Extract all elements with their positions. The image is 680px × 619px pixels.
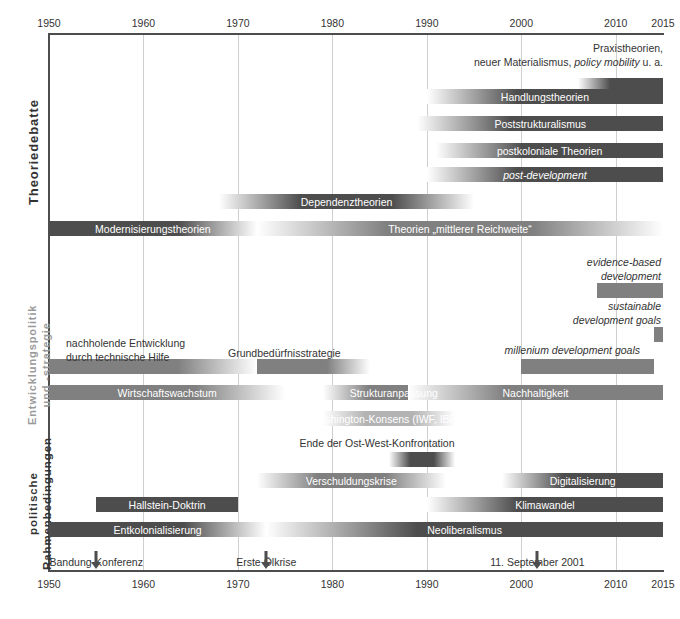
tick-bot-2000: 2000 [510, 578, 533, 590]
bar-annotation-line: durch technische Hilfe [66, 350, 185, 364]
timeline-bar: Verschuldungskrise [257, 473, 446, 488]
bar-annotation: Grundbedürfnisstrategie [228, 346, 341, 360]
tick-bot-1990: 1990 [415, 578, 438, 590]
timeline-bar-label: post-development [499, 169, 590, 181]
timeline-bar [257, 359, 370, 374]
timeline-bar-label: Entkolonialisierung [110, 524, 206, 536]
bar-annotation-line: Grundbedürfnisstrategie [228, 346, 341, 360]
top-axis-line [48, 33, 664, 35]
timeline-bar: Handlungstheorien [427, 89, 663, 104]
timeline-bar: Hallstein-Doktrin [96, 497, 238, 512]
timeline-bar-label: Theorien „mittlerer Reichweite“ [384, 223, 536, 235]
tick-top-1980: 1980 [321, 17, 344, 29]
timeline-bar-label: Dependenztheorien [297, 196, 397, 208]
timeline-bar [597, 283, 663, 298]
tick-top-2000: 2000 [510, 17, 533, 29]
timeline-bar-label: postkoloniale Theorien [493, 145, 606, 157]
timeline-bar: Poststrukturalismus [417, 116, 663, 131]
gridline-1970 [238, 35, 239, 570]
bar-annotation-line: Praxistheorien, [474, 41, 663, 55]
bar-annotation-line: evidence-based [587, 255, 661, 269]
tick-top-1960: 1960 [132, 17, 155, 29]
timeline-bar: Klimawandel [427, 497, 663, 512]
timeline-bar: Washington-Konsens (IWF, IBRD) [323, 411, 455, 426]
bar-annotation-line: Ende der Ost-West-Konfrontation [299, 436, 454, 450]
timeline-bar: Digitalisierung [502, 473, 663, 488]
tick-top-1990: 1990 [415, 17, 438, 29]
timeline-bar-label: Nachhaltigkeit [498, 387, 572, 399]
timeline-bar: Nachhaltigkeit [408, 385, 663, 400]
timeline-bar: Entkolonialisierung [49, 522, 266, 537]
timeline-bar-label: Strukturanpassung [346, 387, 442, 399]
timeline-bar-label: Handlungstheorien [497, 91, 593, 103]
timeline-bar: Dependenztheorien [219, 194, 474, 209]
timeline-bar-label: Digitalisierung [546, 475, 620, 487]
group-label-line: Theoriedebatte [26, 99, 42, 205]
bottom-axis-line [48, 570, 664, 572]
tick-top-2010: 2010 [604, 17, 627, 29]
timeline-bar [521, 359, 653, 374]
timeline-bar-label: Wirtschaftswachstum [113, 387, 220, 399]
timeline-bar [654, 327, 663, 342]
gridline-1980 [332, 35, 333, 570]
timeline-bar: Neoliberalismus [266, 522, 663, 537]
timeline-bar-label: Poststrukturalismus [490, 118, 590, 130]
tick-bot-1960: 1960 [132, 578, 155, 590]
timeline-bar [389, 452, 455, 467]
tick-top-1970: 1970 [226, 17, 249, 29]
tick-top-2015: 2015 [651, 17, 674, 29]
bar-annotation-line: development [587, 269, 661, 283]
bar-annotation: Ende der Ost-West-Konfrontation [299, 436, 454, 450]
bar-annotation: millenium development goals [505, 343, 640, 357]
bar-annotation: evidence-baseddevelopment [587, 255, 661, 283]
tick-bot-2010: 2010 [604, 578, 627, 590]
event-arrow-head-0 [91, 562, 101, 569]
timeline-bar-label: Hallstein-Doktrin [125, 499, 210, 511]
bar-annotation-line: development goals [573, 313, 661, 327]
bar-annotation-line: millenium development goals [505, 343, 640, 357]
group-label-line: Entwicklungspolitik [26, 305, 40, 425]
bar-annotation-line: neuer Materialismus, policy mobility u. … [474, 55, 663, 69]
bar-annotation: sustainabledevelopment goals [573, 299, 661, 327]
timeline-bar: post-development [427, 167, 663, 182]
group-label-line: Rahmenbedingungen [40, 437, 54, 570]
timeline-bar: postkoloniale Theorien [436, 143, 663, 158]
timeline-bar-label: Washington-Konsens (IWF, IBRD) [306, 413, 472, 425]
event-arrow-head-2 [532, 562, 542, 569]
timeline-bar-label: Neoliberalismus [423, 524, 506, 536]
timeline-bar-label: Modernisierungstheorien [91, 223, 215, 235]
tick-top-1950: 1950 [37, 17, 60, 29]
timeline-bar-label: Klimawandel [511, 499, 579, 511]
group-label-theoriedebatte: Theoriedebatte [26, 99, 42, 205]
group-label-line: politische [26, 437, 40, 570]
timeline-bar-label: Verschuldungskrise [302, 475, 401, 487]
event-arrow-head-1 [261, 562, 271, 569]
bar-annotation: nachholende Entwicklungdurch technische … [66, 336, 185, 364]
tick-bot-1970: 1970 [226, 578, 249, 590]
bar-annotation-line: sustainable [573, 299, 661, 313]
tick-bot-1950: 1950 [37, 578, 60, 590]
group-label-rahmenbedingungen: politischeRahmenbedingungen [26, 437, 55, 570]
tick-bot-1980: 1980 [321, 578, 344, 590]
bar-annotation-line: nachholende Entwicklung [66, 336, 185, 350]
tick-bot-2015: 2015 [651, 578, 674, 590]
bar-annotation: Praxistheorien,neuer Materialismus, poli… [474, 41, 663, 69]
timeline-chart: 1950195019601960197019701980198019901990… [0, 0, 680, 619]
italic-term: policy mobility [574, 56, 639, 68]
timeline-bar: Wirtschaftswachstum [49, 385, 285, 400]
gridline-1960 [143, 35, 144, 570]
timeline-bar: Modernisierungstheorien [49, 221, 257, 236]
timeline-bar: Theorien „mittlerer Reichweite“ [257, 221, 663, 236]
